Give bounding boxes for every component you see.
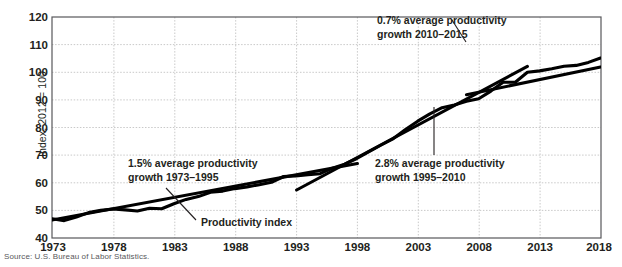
annotation-series-label: Productivity index [201, 216, 292, 230]
annotation-growth-2010-2015: 0.7% average productivity growth 2010–20… [377, 14, 507, 41]
source-note: Source: U.S. Bureau of Labor Statistics. [4, 252, 149, 261]
gridlines-vertical [114, 17, 540, 238]
plot-canvas [0, 0, 622, 267]
annotation-growth-1995-2010: 2.8% average productivity growth 1995–20… [375, 157, 505, 184]
productivity-index-chart: Index, 2012 = 100 40 50 60 70 80 90 100 … [0, 0, 622, 267]
series-productivity-index [52, 58, 601, 221]
annotation-growth-1973-1995: 1.5% average productivity growth 1973–19… [128, 157, 258, 184]
